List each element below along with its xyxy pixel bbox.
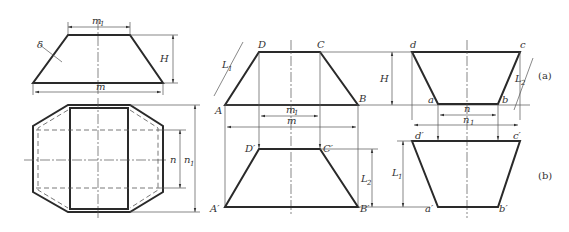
svg-text:1: 1 — [228, 65, 232, 73]
svg-text:d: d — [410, 39, 416, 50]
svg-text:1: 1 — [190, 160, 194, 168]
svg-text:d′: d′ — [415, 130, 424, 141]
svg-text:H: H — [159, 53, 169, 64]
middle-view-bottom: D′ C′ A′ B′ L 2 — [209, 143, 430, 214]
svg-text:D: D — [257, 39, 266, 50]
svg-text:B′: B′ — [359, 203, 370, 214]
engineering-drawing: m 1 H δ m n n 1 — [0, 0, 569, 232]
svg-text:1: 1 — [398, 173, 402, 181]
svg-text:n: n — [170, 154, 176, 165]
caption-b: (b) — [538, 170, 552, 181]
svg-text:A′: A′ — [209, 203, 220, 214]
svg-text:m: m — [96, 81, 105, 92]
left-plan-view: n n 1 — [24, 98, 200, 218]
svg-text:B: B — [358, 93, 366, 104]
svg-text:D′: D′ — [244, 143, 256, 154]
caption-a: (a) — [538, 70, 552, 81]
svg-text:2: 2 — [520, 79, 526, 87]
svg-text:b: b — [502, 94, 508, 105]
svg-text:1: 1 — [470, 119, 474, 127]
svg-text:2: 2 — [366, 179, 372, 187]
svg-text:δ: δ — [37, 39, 43, 50]
svg-text:1: 1 — [100, 20, 104, 28]
left-front-view: m 1 H δ m — [33, 15, 178, 95]
svg-text:A: A — [214, 105, 222, 116]
svg-text:n: n — [463, 114, 469, 125]
svg-text:H: H — [379, 73, 389, 84]
svg-text:c′: c′ — [513, 130, 522, 141]
svg-text:C: C — [317, 39, 325, 50]
svg-text:C′: C′ — [323, 143, 334, 154]
svg-text:a: a — [428, 94, 434, 105]
svg-text:m: m — [287, 115, 296, 126]
svg-text:a′: a′ — [425, 203, 434, 214]
svg-text:n: n — [464, 103, 470, 114]
right-view-bottom: d′ c′ a′ b′ L 1 (b) — [391, 130, 552, 214]
svg-text:b′: b′ — [499, 203, 508, 214]
svg-text:c: c — [520, 39, 526, 50]
